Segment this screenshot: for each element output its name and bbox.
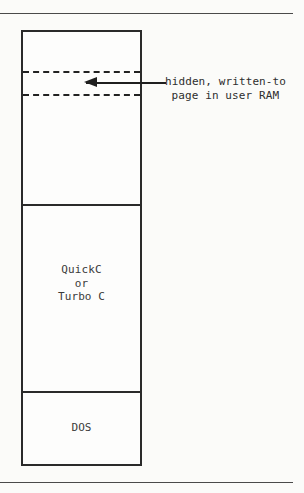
region-label-dos: DOS xyxy=(21,421,142,435)
region-divider-upper xyxy=(21,204,142,206)
annotation-line-2: page in user RAM xyxy=(165,89,279,102)
page-rule-bottom xyxy=(0,482,293,483)
page-rule-top xyxy=(0,13,293,14)
region-label-compiler: QuickC or Turbo C xyxy=(21,263,142,304)
hidden-page-annotation: hidden, written-to page in user RAM xyxy=(165,75,286,102)
hidden-page-boundary-bottom xyxy=(23,94,140,96)
annotation-leader-line xyxy=(86,82,166,84)
figure-page: hidden, written-to page in user RAM Quic… xyxy=(0,0,304,493)
annotation-line-1: hidden, written-to xyxy=(165,75,286,88)
compiler-label-line-3: Turbo C xyxy=(21,290,142,304)
region-divider-lower xyxy=(21,391,142,393)
compiler-label-line-2: or xyxy=(21,277,142,291)
compiler-label-line-1: QuickC xyxy=(21,263,142,277)
hidden-page-boundary-top xyxy=(23,71,140,73)
arrow-left-icon xyxy=(84,77,97,87)
